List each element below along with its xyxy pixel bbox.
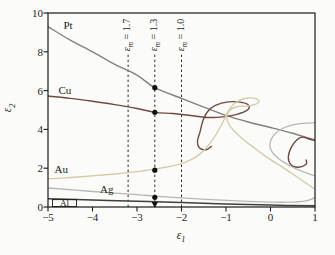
marker-dot (152, 85, 157, 90)
series-path-ag (270, 123, 315, 176)
y-axis-title: ε2 (1, 104, 16, 113)
dielectric-function-chart: −5−4−3−2−1010246810PtCuAuAgAlεm = 1.7εm … (0, 0, 335, 255)
series-path-cu (48, 96, 249, 150)
plot-canvas (0, 0, 335, 255)
al-label-box (52, 200, 76, 207)
x-axis-title: ε1 (177, 229, 186, 244)
marker-dot (152, 168, 157, 173)
x-axis-subscript: 1 (181, 235, 185, 244)
y-axis-symbol: ε (1, 108, 13, 113)
marker-dot (152, 110, 157, 115)
series-path-cu (288, 137, 315, 167)
y-axis-subscript: 2 (8, 104, 17, 108)
marker-dot (152, 195, 157, 200)
series-path-pt (48, 27, 315, 140)
